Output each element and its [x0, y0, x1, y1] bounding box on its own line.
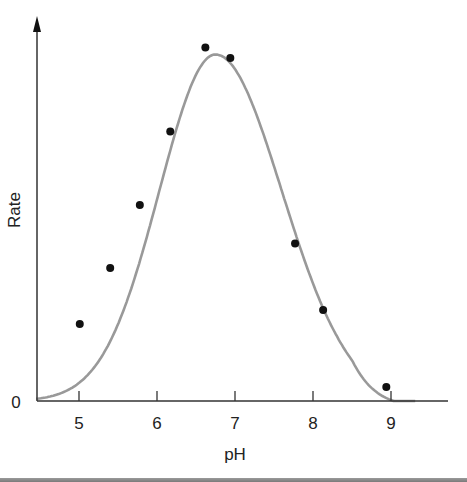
data-point	[106, 264, 114, 272]
data-point	[291, 240, 299, 248]
x-ticks: 56789	[74, 391, 395, 433]
bottom-edge-bar	[0, 478, 467, 482]
x-tick-label: 8	[308, 414, 317, 433]
y-axis-arrow-icon	[33, 16, 41, 32]
data-point	[382, 383, 390, 391]
x-axis-title: pH	[224, 445, 246, 464]
axes	[33, 16, 448, 401]
data-point	[226, 54, 234, 62]
data-point	[319, 306, 327, 314]
x-tick-label: 6	[152, 414, 161, 433]
x-tick-label: 7	[230, 414, 239, 433]
x-tick-label: 9	[386, 414, 395, 433]
y-origin-label: 0	[11, 393, 20, 412]
fitted-curve	[36, 55, 415, 402]
data-points	[76, 44, 391, 392]
data-point	[201, 44, 209, 52]
x-tick-label: 5	[74, 414, 83, 433]
y-axis-title: Rate	[5, 192, 24, 228]
data-point	[136, 201, 144, 209]
data-point	[166, 128, 174, 136]
data-point	[76, 320, 84, 328]
ph-rate-chart: 56789 0 pH Rate	[0, 0, 467, 482]
fitted-curve-line	[36, 55, 415, 402]
